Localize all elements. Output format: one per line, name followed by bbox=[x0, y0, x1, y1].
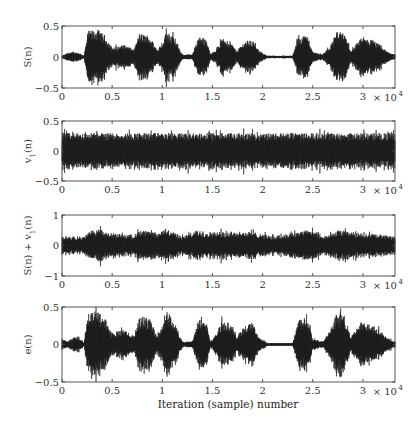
x-tick-label: 0.5 bbox=[104, 184, 120, 195]
x-multiplier-exponent: 4 bbox=[399, 384, 404, 392]
signal-waveform bbox=[62, 129, 395, 175]
x-tick-label: 0.5 bbox=[104, 91, 120, 102]
y-tick-label: 0.5 bbox=[43, 21, 59, 32]
y-axis-label: S(n) bbox=[22, 46, 33, 67]
y-axis-label: v1(n) bbox=[22, 139, 37, 164]
x-tick-label: 0 bbox=[59, 184, 65, 195]
x-multiplier-label: × 10 bbox=[373, 386, 397, 397]
panel-noise: 00.511.522.53× 1040.50−0.5v1(n) bbox=[22, 116, 404, 197]
y-tick-label: 0.5 bbox=[43, 302, 59, 313]
x-tick-label: 2 bbox=[259, 385, 265, 396]
x-tick-label: 1 bbox=[159, 91, 165, 102]
x-tick-label: 2.5 bbox=[305, 385, 321, 396]
x-tick-label: 2.5 bbox=[305, 279, 321, 290]
signal-waveform bbox=[62, 307, 395, 382]
x-tick-label: 3 bbox=[360, 279, 366, 290]
x-tick-label: 1.5 bbox=[204, 385, 220, 396]
x-tick-label: 1.5 bbox=[204, 279, 220, 290]
y-tick-label: 1 bbox=[53, 210, 59, 221]
x-tick-label: 0.5 bbox=[104, 385, 120, 396]
x-tick-label: 2 bbox=[259, 184, 265, 195]
x-axis-label: Iteration (sample) number bbox=[158, 398, 300, 410]
x-tick-label: 0 bbox=[59, 385, 65, 396]
y-tick-label: −0.5 bbox=[35, 176, 59, 187]
x-tick-label: 0 bbox=[59, 91, 65, 102]
x-tick-label: 1 bbox=[159, 385, 165, 396]
x-tick-label: 3 bbox=[360, 91, 366, 102]
x-multiplier-label: × 10 bbox=[373, 185, 397, 196]
x-multiplier-label: × 10 bbox=[373, 92, 397, 103]
x-tick-label: 2 bbox=[259, 279, 265, 290]
x-tick-label: 1.5 bbox=[204, 91, 220, 102]
signal-waveform bbox=[62, 226, 395, 266]
y-axis-label: e(n) bbox=[22, 334, 33, 354]
x-multiplier-exponent: 4 bbox=[399, 183, 404, 191]
x-tick-label: 1 bbox=[159, 184, 165, 195]
y-tick-label: 0.5 bbox=[43, 116, 59, 127]
x-tick-label: 3 bbox=[360, 184, 366, 195]
panel-error-signal: 00.511.522.53× 1040.50−0.5e(n) bbox=[22, 302, 404, 398]
x-multiplier-label: × 10 bbox=[373, 280, 397, 291]
x-tick-label: 0.5 bbox=[104, 279, 120, 290]
panel-speech: 00.511.522.53× 1040.50−0.5S(n) bbox=[22, 21, 404, 104]
x-tick-label: 1 bbox=[159, 279, 165, 290]
x-tick-label: 2.5 bbox=[305, 184, 321, 195]
y-tick-label: 0 bbox=[53, 52, 59, 63]
figure: 00.511.522.53× 1040.50−0.5S(n) 00.511.52… bbox=[0, 0, 413, 430]
y-tick-label: 0 bbox=[53, 146, 59, 157]
x-multiplier-exponent: 4 bbox=[399, 90, 404, 98]
signal-waveform bbox=[62, 28, 395, 87]
x-tick-label: 2.5 bbox=[305, 91, 321, 102]
y-tick-label: 0 bbox=[53, 339, 59, 350]
panel-noisy-speech: 00.511.522.53× 10410−1S(n) + v1(n) bbox=[22, 210, 404, 292]
y-tick-label: −0.5 bbox=[35, 377, 59, 388]
x-multiplier-exponent: 4 bbox=[399, 278, 404, 286]
y-tick-label: −0.5 bbox=[35, 83, 59, 94]
y-axis-label: S(n) + v1(n) bbox=[22, 215, 37, 275]
x-tick-label: 3 bbox=[360, 385, 366, 396]
y-tick-label: 0 bbox=[53, 240, 59, 251]
x-tick-label: 1.5 bbox=[204, 184, 220, 195]
x-tick-label: 2 bbox=[259, 91, 265, 102]
y-tick-label: −1 bbox=[44, 271, 59, 282]
x-tick-label: 0 bbox=[59, 279, 65, 290]
